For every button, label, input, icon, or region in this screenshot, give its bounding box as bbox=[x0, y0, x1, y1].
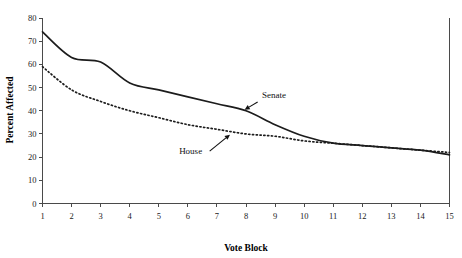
y-tick-label-40: 40 bbox=[28, 106, 37, 116]
y-tick-label-60: 60 bbox=[28, 59, 37, 69]
y-tick-label-50: 50 bbox=[28, 83, 37, 93]
y-tick-label-10: 10 bbox=[28, 175, 37, 185]
x-tick-label-8: 8 bbox=[244, 211, 248, 221]
x-tick-label-15: 15 bbox=[445, 211, 454, 221]
x-tick-label-9: 9 bbox=[273, 211, 277, 221]
x-tick-label-2: 2 bbox=[69, 211, 73, 221]
x-tick-label-7: 7 bbox=[215, 211, 219, 221]
y-tick-label-80: 80 bbox=[28, 13, 37, 23]
x-tick-label-12: 12 bbox=[358, 211, 367, 221]
y-tick-label-30: 30 bbox=[28, 129, 37, 139]
x-tick-label-11: 11 bbox=[329, 211, 337, 221]
x-tick-label-10: 10 bbox=[300, 211, 309, 221]
y-tick-label-20: 20 bbox=[28, 152, 37, 162]
x-tick-label-6: 6 bbox=[186, 211, 190, 221]
x-tick-label-4: 4 bbox=[128, 211, 133, 221]
x-tick-label-3: 3 bbox=[99, 211, 103, 221]
y-axis-title: Percent Affected bbox=[5, 76, 15, 144]
x-tick-label-13: 13 bbox=[387, 211, 396, 221]
x-tick-label-14: 14 bbox=[416, 211, 425, 221]
chart-figure: 01020304050607080 123456789101112131415 … bbox=[0, 0, 462, 258]
percent-affected-line-chart: 01020304050607080 123456789101112131415 … bbox=[0, 0, 462, 258]
x-axis-title: Vote Block bbox=[224, 243, 268, 253]
x-tick-label-5: 5 bbox=[157, 211, 161, 221]
y-tick-label-70: 70 bbox=[28, 36, 37, 46]
annotation-label-house: House bbox=[179, 146, 202, 156]
y-tick-label-0: 0 bbox=[32, 199, 36, 209]
x-tick-label-1: 1 bbox=[40, 211, 44, 221]
annotation-label-senate: Senate bbox=[262, 90, 286, 100]
